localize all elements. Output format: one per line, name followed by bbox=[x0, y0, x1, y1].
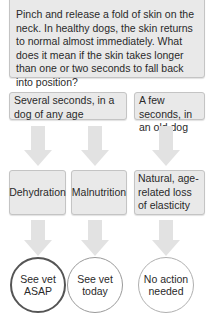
down-arrow-icon bbox=[152, 126, 180, 166]
down-arrow-icon bbox=[24, 126, 52, 166]
cause-elasticity-text: Natural, age-related loss of elasticity bbox=[138, 172, 201, 213]
observation-any-age-box: Several seconds, in a dog of any age bbox=[9, 92, 127, 120]
intro-question-box: Pinch and release a fold of skin on the … bbox=[9, 0, 205, 78]
action-none-line2: needed bbox=[144, 285, 188, 297]
down-arrow-icon bbox=[24, 220, 52, 256]
observation-any-age-text: Several seconds, in a dog of any age bbox=[14, 94, 114, 120]
action-see-vet-today: See vet today bbox=[67, 257, 123, 313]
action-today-line2: today bbox=[77, 285, 113, 297]
down-arrow-icon bbox=[81, 126, 109, 166]
cause-malnutrition-text: Malnutrition bbox=[72, 186, 126, 200]
intro-text: Pinch and release a fold of skin on the … bbox=[16, 8, 194, 88]
action-see-vet-asap: See vet ASAP bbox=[10, 257, 66, 313]
action-asap-line1: See vet bbox=[20, 273, 56, 285]
cause-dehydration-text: Dehydration bbox=[9, 186, 66, 200]
action-none-line1: No action bbox=[144, 273, 188, 285]
cause-malnutrition-box: Malnutrition bbox=[71, 170, 127, 215]
down-arrow-icon bbox=[152, 220, 180, 256]
action-today-line1: See vet bbox=[77, 273, 113, 285]
cause-elasticity-box: Natural, age-related loss of elasticity bbox=[134, 170, 205, 215]
cause-dehydration-box: Dehydration bbox=[9, 170, 66, 215]
observation-old-dog-box: A few seconds, in an old dog bbox=[134, 92, 205, 120]
action-no-action-needed: No action needed bbox=[138, 257, 194, 313]
action-asap-line2: ASAP bbox=[20, 285, 56, 297]
down-arrow-icon bbox=[81, 220, 109, 256]
